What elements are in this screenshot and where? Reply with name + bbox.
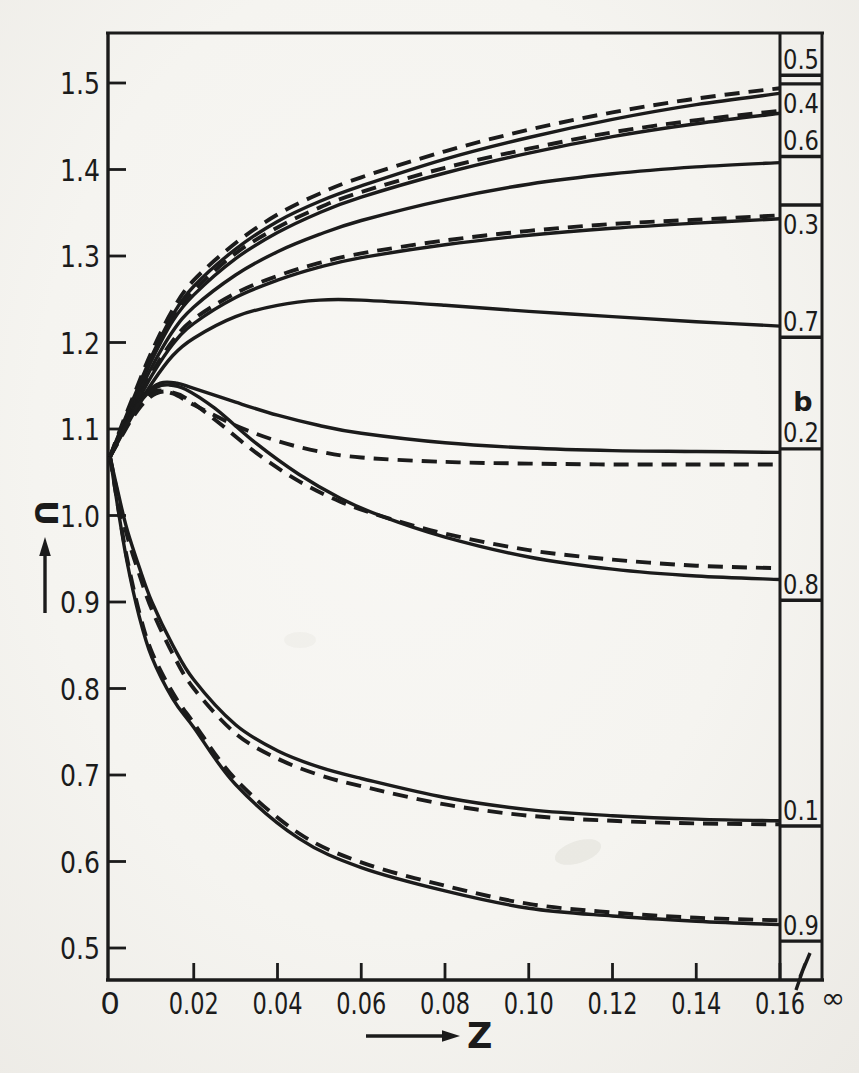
x-tick-label: 0.08: [420, 985, 470, 1021]
curve-b0.2-solid: [110, 382, 780, 457]
curve-b0.8-solid: [110, 385, 780, 580]
curve-b0.8-dashed: [110, 392, 780, 569]
y-tick-label: 1.2: [60, 325, 100, 361]
curve-b0.1-solid: [110, 457, 780, 821]
y-tick-label: 1.5: [60, 65, 100, 101]
x-tick-label-infinity: ∞: [821, 981, 845, 1015]
y-tick-label: 1.1: [60, 411, 100, 447]
right-arrow-icon: [442, 1030, 460, 1042]
up-arrow-icon: [39, 537, 51, 556]
x-tick-label: 0.12: [588, 985, 638, 1021]
x-tick-label: 0.02: [169, 985, 219, 1021]
column-label-b0.1: 0.1: [783, 795, 819, 826]
curve-b0.9-solid: [110, 457, 780, 925]
curve-b0.3-solid: [110, 219, 780, 457]
column-label-b0.2: 0.2: [783, 417, 819, 448]
x-tick-label: 0.14: [671, 985, 721, 1021]
column-label-b0.3: 0.3: [783, 209, 819, 240]
curve-b0.3-dashed: [110, 215, 780, 456]
curve-b0.9-dashed: [110, 457, 780, 921]
curve-b0.1-dashed: [110, 457, 780, 825]
x-tick-label: 0: [100, 985, 120, 1021]
x-tick-label: 0.10: [504, 985, 554, 1021]
x-axis-label-group: Z: [366, 1016, 492, 1056]
x-tick-label: 0.04: [253, 985, 303, 1021]
y-tick-label: 0.7: [60, 757, 100, 793]
scanned-figure-page: U Z ∞ 1.51.41.31.21.11.00.90.80.70.60.50…: [0, 0, 859, 1073]
curve-b0.5-dashed: [110, 88, 780, 457]
column-label-b0.9: 0.9: [783, 910, 819, 941]
y-tick-label: 1.4: [60, 152, 100, 188]
column-label-b0.5: 0.5: [783, 44, 819, 75]
y-tick-label: 1.0: [60, 498, 100, 534]
column-label-b0.4: 0.4: [783, 88, 819, 119]
column-label-b0.8: 0.8: [783, 569, 819, 600]
y-tick-label: 0.5: [60, 930, 100, 966]
plot-frame: [106, 33, 824, 990]
scan-smudge: [552, 834, 604, 870]
y-tick-label: 0.8: [60, 671, 100, 707]
column-header-b: b: [793, 386, 812, 417]
curve-b0.5-solid: [110, 93, 780, 456]
x-axis-title: Z: [467, 1016, 492, 1056]
column-label-b0.7: 0.7: [783, 306, 819, 337]
column-label-b0.6: 0.6: [783, 125, 819, 156]
x-tick-label: 0.06: [336, 985, 386, 1021]
curve-b0.7-solid: [110, 299, 780, 456]
y-tick-label: 0.6: [60, 844, 100, 880]
plot-content: 1.51.41.31.21.11.00.90.80.70.60.500.020.…: [60, 44, 822, 1021]
curve-b0.2-dashed: [110, 391, 780, 465]
figure-canvas: U Z ∞ 1.51.41.31.21.11.00.90.80.70.60.50…: [0, 0, 859, 1073]
scan-smudge: [284, 632, 316, 648]
x-tick-label: 0.16: [755, 985, 805, 1021]
y-tick-label: 0.9: [60, 584, 100, 620]
y-tick-label: 1.3: [60, 238, 100, 274]
